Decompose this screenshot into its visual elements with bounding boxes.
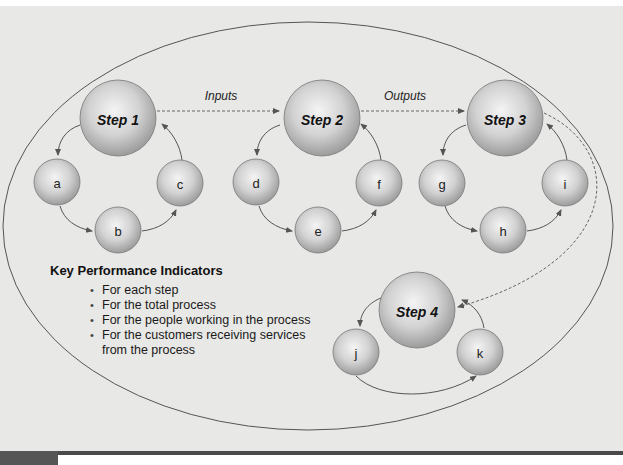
substep-h-label: h [499, 224, 506, 239]
substep-k-label: k [477, 346, 484, 361]
arrow-h-i [527, 210, 561, 231]
substep-g-label: g [438, 177, 445, 192]
bottom-rule [0, 451, 623, 455]
arrow-f-step2 [361, 124, 381, 160]
kpi-item: For the people working in the process [102, 313, 310, 328]
arrow-step1-a [58, 125, 80, 155]
bottom-corner-block [0, 451, 58, 465]
step3-label: Step 3 [484, 112, 526, 128]
substep-j-label: j [355, 346, 358, 361]
arrow-e-f [342, 210, 376, 231]
arrow-d-e [259, 206, 292, 231]
kpi-item: For the total process [102, 298, 310, 313]
kpi-section: Key Performance Indicators For each step… [50, 263, 310, 358]
arrow-g-h [445, 206, 477, 231]
substep-c-label: c [177, 177, 184, 192]
arrow-step4-j [360, 298, 381, 326]
substep-b-label: b [114, 224, 121, 239]
step1-label: Step 1 [97, 112, 139, 128]
arrow-c-step1 [162, 124, 182, 160]
process-diagram [0, 0, 623, 465]
outputs-label: Outputs [384, 89, 426, 103]
substep-d-label: d [252, 176, 259, 191]
substep-i-label: i [564, 177, 567, 192]
arrow-b-c [142, 210, 176, 231]
step2-label: Step 2 [301, 112, 343, 128]
arrow-i-step3 [547, 124, 567, 160]
arrow-a-b [60, 206, 92, 231]
arrow-step2-d [257, 125, 280, 155]
substep-f-label: f [377, 177, 381, 192]
kpi-list: For each step For the total process For … [50, 283, 310, 358]
arrow-j-k [356, 376, 476, 394]
kpi-item: For the customers receiving services [102, 328, 310, 343]
kpi-title: Key Performance Indicators [50, 263, 310, 278]
substep-a-label: a [53, 176, 60, 191]
arrow-k-step4 [462, 300, 484, 328]
kpi-item: For each step [102, 283, 310, 298]
arrow-step3-g [443, 125, 466, 155]
substep-e-label: e [314, 224, 321, 239]
kpi-item-continuation: from the process [102, 343, 310, 358]
step4-label: Step 4 [396, 304, 438, 320]
inputs-label: Inputs [205, 89, 238, 103]
